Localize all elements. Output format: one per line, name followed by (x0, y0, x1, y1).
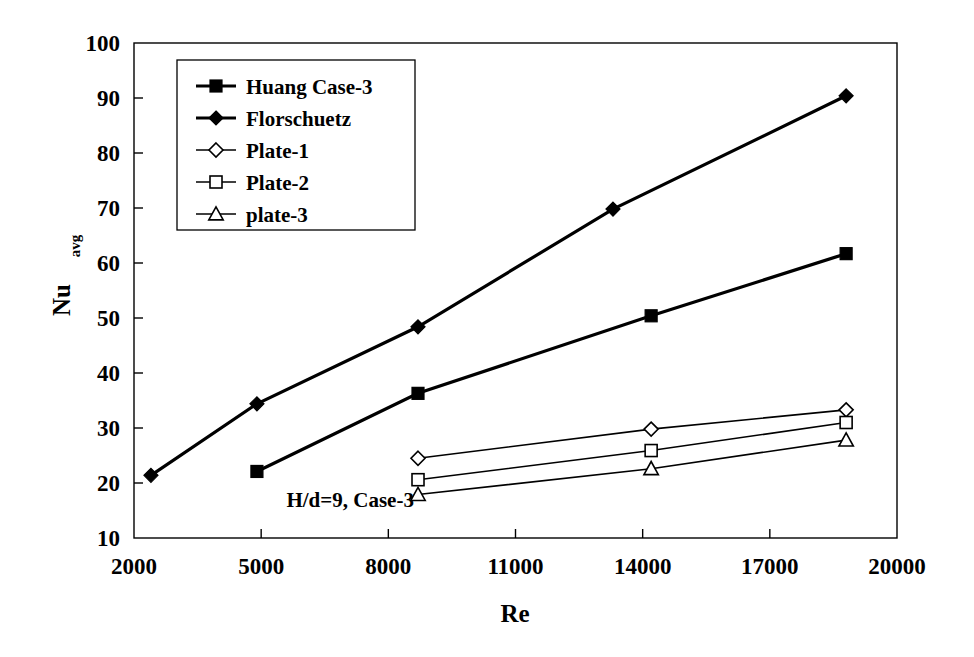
x-tick-label: 17000 (741, 554, 799, 579)
chart-figure: 102030405060708090100 200050008000110001… (0, 0, 974, 657)
x-tick-label: 8000 (365, 554, 411, 579)
y-tick-label: 70 (97, 196, 120, 221)
x-tick-label: 2000 (111, 554, 157, 579)
x-tick-label: 20000 (868, 554, 926, 579)
y-tick-label: 60 (97, 251, 120, 276)
data-point-marker-filled-square (210, 80, 222, 92)
annotation-layer: H/d=9, Case-3 (286, 488, 413, 512)
y-tick-label: 80 (97, 141, 120, 166)
data-point-marker-open-square (210, 176, 222, 188)
data-point-marker-filled-square (251, 465, 263, 477)
data-point-marker-filled-square (840, 248, 852, 260)
y-tick-label: 50 (97, 306, 120, 331)
x-axis-title: Re (500, 600, 529, 627)
y-tick-label: 40 (97, 361, 120, 386)
data-point-marker-filled-square (645, 310, 657, 322)
y-tick-label: 30 (97, 416, 120, 441)
data-point-marker-open-square (412, 474, 424, 486)
data-point-marker-open-square (840, 417, 852, 429)
legend-item-label: plate-3 (246, 203, 308, 227)
y-axis-title-subscript: avg (67, 234, 83, 257)
data-point-marker-open-square (645, 445, 657, 457)
y-tick-label: 20 (97, 471, 120, 496)
y-axis-title-main: Nu (48, 284, 75, 316)
y-tick-label: 100 (86, 31, 121, 56)
x-tick-label: 14000 (614, 554, 672, 579)
legend-item-label: Huang Case-3 (246, 75, 373, 99)
legend-item-label: Plate-1 (246, 139, 309, 163)
chart-legend: Huang Case-3FlorschuetzPlate-1Plate-2pla… (177, 60, 415, 230)
chart-svg: 102030405060708090100 200050008000110001… (0, 0, 974, 657)
data-point-marker-filled-square (412, 387, 424, 399)
x-tick-label: 5000 (238, 554, 284, 579)
legend-item-label: Plate-2 (246, 171, 309, 195)
y-tick-label: 90 (97, 86, 120, 111)
chart-annotation: H/d=9, Case-3 (286, 488, 413, 512)
legend-item-label: Florschuetz (246, 107, 351, 131)
x-axis-title-main: Re (500, 600, 529, 627)
x-tick-label: 11000 (487, 554, 543, 579)
y-tick-label: 10 (97, 526, 120, 551)
